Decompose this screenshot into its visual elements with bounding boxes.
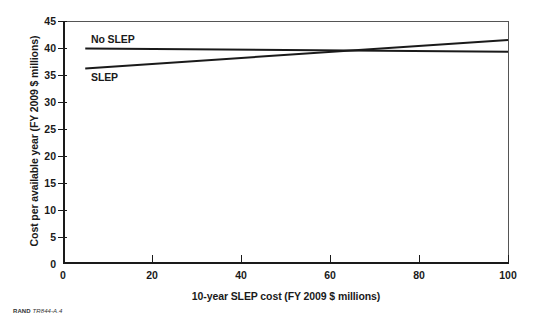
y-tick-label: 10 xyxy=(26,205,56,216)
y-tick-label: 30 xyxy=(26,97,56,108)
y-tick-label: 15 xyxy=(26,178,56,189)
x-tick-label: 60 xyxy=(310,270,350,281)
x-tick-label: 20 xyxy=(132,270,172,281)
y-tick-mark xyxy=(58,237,67,238)
series-label-slep: SLEP xyxy=(91,71,118,83)
figure-footer: RAND TR844-A.4 xyxy=(13,308,62,314)
x-tick-label: 100 xyxy=(488,270,528,281)
y-tick-label: 40 xyxy=(26,43,56,54)
y-tick-label: 35 xyxy=(26,70,56,81)
x-tick-mark xyxy=(330,255,331,264)
figure-container: Cost per available year (FY 2009 $ milli… xyxy=(0,0,539,329)
y-tick-label: 45 xyxy=(26,16,56,27)
y-tick-label: 25 xyxy=(26,124,56,135)
x-tick-label: 0 xyxy=(43,270,83,281)
y-tick-mark xyxy=(58,102,67,103)
y-tick-mark xyxy=(58,183,67,184)
series-label-no-slep: No SLEP xyxy=(91,33,135,45)
x-tick-label: 40 xyxy=(221,270,261,281)
y-tick-label: 5 xyxy=(26,232,56,243)
y-tick-mark xyxy=(58,75,67,76)
y-tick-label: 20 xyxy=(26,151,56,162)
y-tick-mark xyxy=(58,21,67,22)
axis-ticks: 051015202530354045020406080100 xyxy=(0,0,539,329)
x-tick-mark xyxy=(152,255,153,264)
x-tick-mark xyxy=(508,255,509,264)
x-tick-label: 80 xyxy=(399,270,439,281)
footer-figure-number: TR844-A.4 xyxy=(33,308,63,314)
footer-brand: RAND xyxy=(13,308,31,314)
y-tick-mark xyxy=(58,48,67,49)
x-tick-mark xyxy=(241,255,242,264)
y-tick-mark xyxy=(58,129,67,130)
x-tick-mark xyxy=(419,255,420,264)
y-tick-label: 0 xyxy=(26,259,56,270)
y-tick-mark xyxy=(58,210,67,211)
y-tick-mark xyxy=(58,156,67,157)
